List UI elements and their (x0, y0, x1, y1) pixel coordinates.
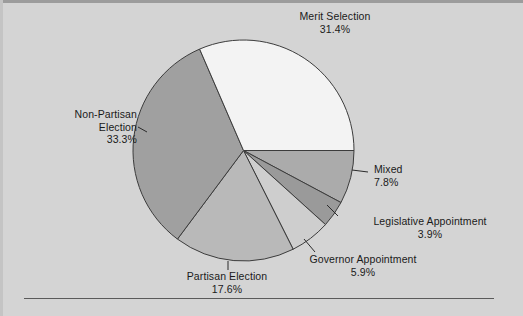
pie-label-governor-appointment-value: 5.9% (283, 266, 443, 279)
pie-label-legislative-appointment: Legislative Appointment 3.9% (341, 215, 519, 240)
pie-label-mixed-value: 7.8% (374, 176, 444, 189)
pie-label-mixed-name: Mixed (374, 163, 444, 176)
leader-line-governor (304, 239, 315, 252)
pie-slice-group (133, 40, 354, 261)
leader-line-mixed (352, 170, 368, 172)
pie-label-merit-selection-value: 31.4% (270, 23, 400, 36)
figure-page: Merit Selection 31.4% Non-Partisan Elect… (0, 0, 523, 316)
pie-label-legislative-appointment-value: 3.9% (341, 228, 519, 241)
pie-label-mixed: Mixed 7.8% (374, 163, 444, 188)
pie-label-governor-appointment-name: Governor Appointment (283, 253, 443, 266)
pie-label-merit-selection: Merit Selection 31.4% (270, 10, 400, 35)
footer-note-text (26, 307, 496, 316)
pie-label-partisan-election-value: 17.6% (155, 283, 299, 296)
pie-label-non-partisan-election-value: 33.3% (33, 133, 137, 146)
pie-label-non-partisan-election-name-line1: Non-Partisan (33, 108, 137, 121)
pie-label-non-partisan-election-name-line2: Election (33, 121, 137, 134)
pie-label-merit-selection-name: Merit Selection (270, 10, 400, 23)
pie-chart (0, 0, 523, 316)
pie-label-legislative-appointment-name: Legislative Appointment (341, 215, 519, 228)
pie-label-non-partisan-election: Non-Partisan Election 33.3% (33, 108, 137, 146)
pie-label-partisan-election-name: Partisan Election (155, 270, 299, 283)
pie-label-governor-appointment: Governor Appointment 5.9% (283, 253, 443, 278)
pie-label-partisan-election: Partisan Election 17.6% (155, 270, 299, 295)
footer-divider-rule (24, 298, 494, 299)
